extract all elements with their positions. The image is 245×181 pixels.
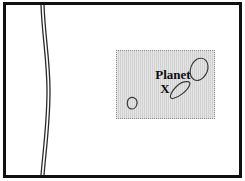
- upper-right-landmass-icon: [190, 58, 208, 80]
- teardrop-landmass-icon: [170, 82, 190, 99]
- map-frame-border: Planet X: [3, 2, 242, 178]
- inset-shapes: [117, 51, 214, 118]
- figure-root: Planet X: [0, 0, 245, 181]
- small-oval-landmass-icon: [127, 97, 137, 109]
- landmass-outlines-svg: [117, 51, 214, 118]
- inset-detail-panel: Planet X: [116, 50, 215, 119]
